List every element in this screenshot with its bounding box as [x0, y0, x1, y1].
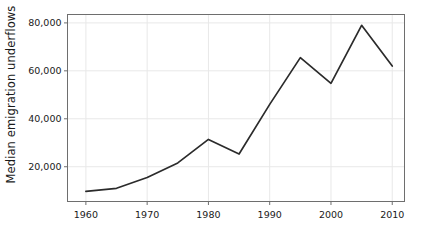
- y-tick-label: 80,000: [28, 17, 61, 28]
- plot-border: [68, 15, 405, 202]
- x-tick-label: 2010: [380, 209, 404, 220]
- x-tick-label: 1990: [258, 209, 282, 220]
- chart-figure: Median emigration underflows 20,00040,00…: [0, 0, 422, 239]
- x-axis-tick-labels: 196019701980199020002010: [74, 209, 405, 220]
- plot-frame: [68, 15, 405, 202]
- gridlines-group: [68, 15, 405, 202]
- x-tick-label: 1970: [135, 209, 159, 220]
- x-tick-label: 1960: [74, 209, 98, 220]
- line-chart-plot: 20,00040,00060,00080,000 196019701980199…: [0, 0, 422, 239]
- y-tick-label: 60,000: [28, 65, 61, 76]
- x-tick-label: 2000: [319, 209, 343, 220]
- y-tick-label: 40,000: [28, 113, 61, 124]
- x-tick-label: 1980: [196, 209, 220, 220]
- y-axis-tick-labels: 20,00040,00060,00080,000: [28, 17, 61, 172]
- y-tick-label: 20,000: [28, 161, 61, 172]
- axis-ticks: [64, 23, 392, 205]
